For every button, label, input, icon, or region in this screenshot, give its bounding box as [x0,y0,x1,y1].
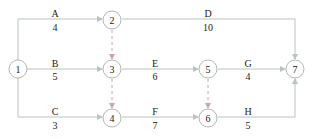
svg-text:3: 3 [110,64,115,75]
activity-h-duration: 5 [246,120,251,131]
activity-b-duration: 5 [53,71,58,82]
node-3: 3 [103,60,121,78]
activity-c-duration: 3 [53,120,58,131]
node-1: 1 [9,60,27,78]
svg-text:1: 1 [16,64,21,75]
activity-d-name: D [204,8,211,19]
svg-text:4: 4 [110,113,115,124]
activity-f-name: F [152,106,158,117]
activity-e-name: E [152,58,158,69]
activity-h-name: H [244,106,251,117]
activity-h-arrow [218,79,295,117]
svg-text:5: 5 [206,64,211,75]
activity-e-duration: 6 [153,71,158,82]
activity-g-duration: 4 [246,71,251,82]
activity-a-arrow [18,19,102,60]
network-diagram: 1 2 3 4 5 6 7 A 4 B 5 C 3 D 10 E 6 F 7 G… [0,0,314,139]
node-5: 5 [199,60,217,78]
activity-g-name: G [244,58,251,69]
node-7: 7 [286,60,304,78]
activity-a-name: A [51,8,59,19]
activity-c-name: C [52,106,59,117]
node-2: 2 [103,11,121,29]
svg-text:2: 2 [110,15,115,26]
svg-text:6: 6 [206,113,211,124]
activity-f-duration: 7 [153,120,158,131]
node-4: 4 [103,109,121,127]
activity-d-duration: 10 [203,22,213,33]
svg-text:7: 7 [293,64,298,75]
activity-a-duration: 4 [53,22,58,33]
node-6: 6 [199,109,217,127]
activity-b-name: B [52,58,59,69]
activity-c-arrow [18,78,102,117]
